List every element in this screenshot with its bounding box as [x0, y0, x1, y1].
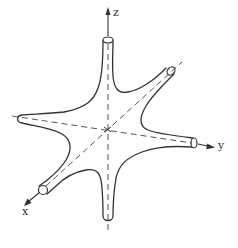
- diagram-canvas: [0, 0, 238, 248]
- star-surface-diagram: z y x: [0, 0, 238, 248]
- z-top-cap: [103, 37, 113, 43]
- y-axis-hidden: [12, 116, 192, 143]
- x-lower-left-cap: [39, 186, 48, 195]
- z-axis-label: z: [113, 7, 119, 18]
- z-axis: [106, 7, 111, 36]
- y-axis-label: y: [218, 140, 224, 151]
- y-axis: [198, 144, 215, 150]
- x-axis-label: x: [22, 206, 28, 217]
- x-axis: [24, 192, 40, 206]
